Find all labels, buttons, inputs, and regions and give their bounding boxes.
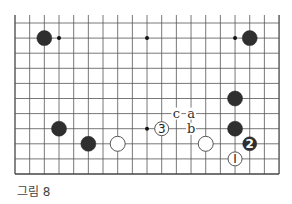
black-stone xyxy=(52,121,67,136)
marker-dot xyxy=(57,36,61,40)
marker-dot xyxy=(145,36,149,40)
go-board-diagram: cab32I xyxy=(0,0,292,204)
point-label-a: a xyxy=(187,106,195,121)
point-label-b: b xyxy=(187,121,195,136)
white-stone xyxy=(198,136,213,151)
black-stone xyxy=(228,91,243,106)
white-stone xyxy=(110,136,125,151)
move-number-1: I xyxy=(233,152,237,166)
move-number-3: 3 xyxy=(158,122,166,136)
figure-caption: 그림 8 xyxy=(17,182,50,199)
marker-dot xyxy=(233,36,237,40)
black-stone xyxy=(37,31,52,46)
black-stone xyxy=(242,31,257,46)
black-stone xyxy=(228,121,243,136)
marker-dot xyxy=(145,127,149,131)
move-number-2: 2 xyxy=(246,137,254,151)
point-label-c: c xyxy=(173,106,180,121)
black-stone xyxy=(81,136,96,151)
